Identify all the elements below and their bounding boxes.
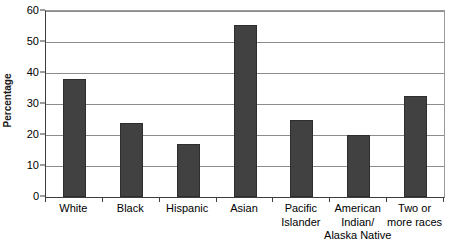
x-axis-category-label: PacificIslander (281, 202, 320, 229)
x-axis-category-label-line: Asian (230, 202, 258, 216)
y-axis-title: Percentage (0, 0, 16, 200)
bar (63, 79, 86, 197)
x-axis-category-labels: WhiteBlackHispanicAsianPacificIslanderAm… (45, 202, 444, 248)
x-axis-category-label-line: more races (387, 216, 442, 230)
x-axis-category-label: Asian (230, 202, 258, 216)
x-axis-category-label-line: Islander (281, 216, 320, 230)
y-axis-tick-label: 10 (27, 159, 39, 171)
x-axis-category-label-line: White (59, 202, 87, 216)
bar (234, 25, 257, 197)
x-axis-category-label: Hispanic (166, 202, 208, 216)
bar (120, 123, 143, 197)
x-axis-category-label-line: Black (117, 202, 144, 216)
y-axis-title-text: Percentage (3, 73, 14, 127)
y-axis-tick-label: 30 (27, 97, 39, 109)
bars (46, 11, 444, 197)
x-axis-category-label: Black (117, 202, 144, 216)
bar (404, 96, 427, 197)
x-axis-category-label-line: American (324, 202, 391, 216)
y-axis-tick-labels: 0102030405060 (16, 0, 42, 200)
x-axis-category-label-line: Hispanic (166, 202, 208, 216)
y-axis-tick-label: 60 (27, 4, 39, 16)
y-axis-tick-label: 50 (27, 35, 39, 47)
bar (347, 135, 370, 197)
bar (290, 120, 313, 198)
y-axis-tick-label: 0 (33, 190, 39, 202)
y-axis-tick-label: 20 (27, 128, 39, 140)
x-axis-category-label-line: Indian/ (324, 216, 391, 230)
x-axis-category-label-line: Pacific (281, 202, 320, 216)
x-axis-category-label: White (59, 202, 87, 216)
plot-area (45, 10, 445, 198)
x-axis-category-label: Two ormore races (387, 202, 442, 229)
y-axis-tick-label: 40 (27, 66, 39, 78)
x-axis-category-label-line: Two or (387, 202, 442, 216)
bar-chart: Percentage 0102030405060 WhiteBlackHispa… (0, 0, 461, 248)
x-axis-category-label: AmericanIndian/Alaska Native (324, 202, 391, 243)
x-axis-category-label-line: Alaska Native (324, 229, 391, 243)
bar (177, 144, 200, 197)
